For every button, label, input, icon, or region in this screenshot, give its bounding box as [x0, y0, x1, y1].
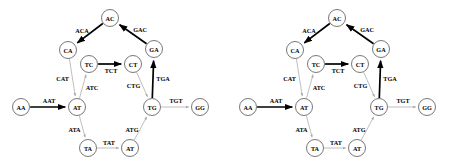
node-aa[interactable]: AA [13, 99, 30, 116]
edge-label-atg-11: ATG [353, 126, 366, 133]
node-label-ac: AC [333, 15, 342, 22]
figure-root: AATACAGACCATATCTCTCTGTGATGTATATATATGAAAT… [0, 0, 453, 165]
node-at2[interactable]: AT [349, 140, 366, 157]
node-at1[interactable]: AT [69, 99, 86, 116]
node-gg[interactable]: GG [419, 99, 436, 116]
edge-label-tga-7: TGA [383, 75, 397, 82]
node-ac[interactable]: AC [329, 10, 346, 27]
node-label-ct: CT [356, 61, 365, 68]
node-ga[interactable]: GA [373, 41, 390, 58]
node-label-tg: TG [375, 104, 384, 111]
edge-label-atc-4: ATC [313, 84, 326, 91]
right-panel-canvas: AATACAGACCATATCTCTCTGTGATGTATATATATGAAAT… [227, 0, 453, 165]
node-ta[interactable]: TA [80, 140, 97, 157]
edge-label-aca-1: ACA [302, 27, 316, 34]
right-panel: AATACAGACCATATCTCTCTGTGATGTATATATATGAAAT… [227, 0, 453, 165]
edge-label-ata-9: ATA [68, 126, 81, 133]
node-label-ca: CA [64, 47, 73, 54]
node-ct[interactable]: CT [352, 56, 369, 73]
edge-label-atg-11: ATG [126, 126, 139, 133]
edge-label-aca-1: ACA [75, 27, 89, 34]
edge-label-aat-0: AAT [43, 97, 56, 104]
node-at2[interactable]: AT [122, 140, 139, 157]
edge-label-aat-0: AAT [270, 97, 283, 104]
edge-label-ctg-6: CTG [354, 82, 368, 89]
node-label-at1: AT [300, 104, 309, 111]
edge-label-ctg-6: CTG [127, 82, 141, 89]
node-label-tc: TC [85, 61, 94, 68]
edges-layer [30, 24, 189, 148]
node-ta[interactable]: TA [307, 140, 324, 157]
edge-label-tct-5: TCT [332, 67, 346, 74]
node-label-aa: AA [244, 104, 253, 111]
node-tg[interactable]: TG [371, 99, 388, 116]
node-tc[interactable]: TC [81, 56, 98, 73]
edge-label-cat-3: CAT [283, 75, 296, 82]
node-label-ga: GA [376, 46, 386, 53]
node-label-ca: CA [291, 47, 300, 54]
node-tc[interactable]: TC [308, 56, 325, 73]
node-label-gg: GG [195, 104, 205, 111]
node-label-ta: TA [84, 145, 93, 152]
node-label-at2: AT [353, 145, 362, 152]
node-label-gg: GG [422, 104, 432, 111]
edge-ca-to-at1 [296, 59, 302, 96]
node-label-tc: TC [312, 61, 321, 68]
edge-ca-to-at1 [69, 59, 75, 96]
edge-tg-to-ga [152, 61, 153, 98]
edge-label-cat-3: CAT [56, 75, 69, 82]
node-at1[interactable]: AT [296, 99, 313, 116]
edge-label-tga-7: TGA [156, 75, 170, 82]
edge-label-tgt-8: TGT [396, 97, 410, 104]
edge-label-tat-10: TAT [103, 139, 116, 146]
edge-label-gac-2: GAC [133, 26, 147, 33]
node-tg[interactable]: TG [144, 99, 161, 116]
left-panel: AATACAGACCATATCTCTCTGTGATGTATATATATGAAAT… [0, 0, 226, 165]
node-label-ta: TA [311, 145, 320, 152]
node-label-ac: AC [106, 15, 115, 22]
edge-tg-to-ga [379, 61, 380, 98]
node-label-at1: AT [73, 104, 82, 111]
left-panel-canvas: AATACAGACCATATCTCTCTGTGATGTATATATATGAAAT… [0, 0, 226, 165]
node-label-aa: AA [17, 104, 26, 111]
nodes-layer: AAATCAACGATCCTTGGGTAAT [13, 10, 209, 157]
edge-label-tgt-8: TGT [169, 97, 183, 104]
nodes-layer: AAATCAACGATCCTTGGGTAAT [240, 10, 436, 157]
node-aa[interactable]: AA [240, 99, 257, 116]
edge-label-gac-2: GAC [360, 26, 374, 33]
node-ca[interactable]: CA [60, 42, 77, 59]
edge-label-atc-4: ATC [86, 84, 99, 91]
edge-label-ata-9: ATA [295, 126, 308, 133]
node-ca[interactable]: CA [287, 42, 304, 59]
node-gg[interactable]: GG [192, 99, 209, 116]
edge-label-tat-10: TAT [330, 139, 343, 146]
node-ct[interactable]: CT [125, 56, 142, 73]
node-ga[interactable]: GA [146, 41, 163, 58]
node-label-at2: AT [126, 145, 135, 152]
node-ac[interactable]: AC [102, 10, 119, 27]
node-label-ga: GA [149, 46, 159, 53]
edge-label-tct-5: TCT [105, 67, 119, 74]
edges-layer [257, 24, 416, 148]
node-label-tg: TG [148, 104, 157, 111]
node-label-ct: CT [129, 61, 138, 68]
